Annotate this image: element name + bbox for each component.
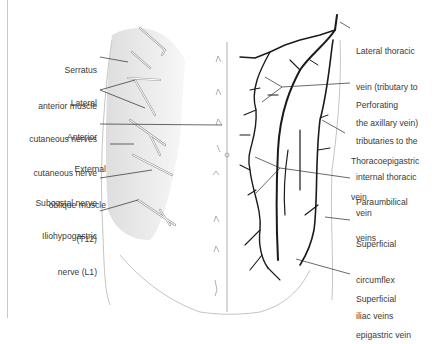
label-line: Superficial bbox=[356, 293, 411, 305]
label-line: Superficial bbox=[356, 238, 396, 250]
label-line: Perforating bbox=[356, 99, 418, 111]
label-superficial-epigastric-vein: Superficial epigastric vein bbox=[356, 269, 411, 344]
label-line: Lateral thoracic bbox=[356, 45, 418, 57]
label-iliohypogastric-nerve: Iliohypogastric nerve (L1) bbox=[0, 206, 97, 290]
label-line: Thoracoepigastric bbox=[351, 155, 419, 167]
anterior-cutaneous-nerve-marks bbox=[213, 56, 222, 296]
label-line: Iliohypogastric bbox=[0, 230, 97, 242]
label-line: nerve (L1) bbox=[0, 266, 97, 278]
label-line: Paraumbilical bbox=[356, 196, 408, 208]
label-line: epigastric vein bbox=[356, 329, 411, 341]
superficial-veins bbox=[240, 15, 337, 280]
